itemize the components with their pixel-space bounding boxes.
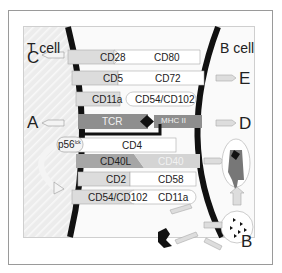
cd54-cd102-t-label: CD54/CD102 — [88, 193, 147, 203]
cd80-label: CD80 — [154, 53, 180, 63]
cd72-label: CD72 — [155, 74, 181, 84]
cd40l-label: CD40L — [100, 157, 131, 167]
cd54-cd102-label: CD54/CD102 — [135, 95, 194, 105]
arrow-cd40-icon — [204, 158, 224, 164]
marker-d: D — [239, 115, 251, 132]
cd5-label: CD5 — [103, 74, 123, 84]
tcr-label: TCR — [102, 117, 123, 127]
cd28-label: CD28 — [100, 53, 126, 63]
antigen-icon — [158, 228, 172, 248]
mhc-ii-label: MHC II — [161, 117, 186, 125]
marker-a: A — [27, 114, 38, 131]
b-cell-membrane — [197, 27, 222, 237]
cd11a-b-label: CD11a — [158, 193, 188, 203]
p56lck-label: p56lck — [58, 140, 81, 150]
marker-c: C — [27, 49, 39, 66]
cd40-label: CD40 — [158, 157, 184, 167]
cd58-label: CD58 — [158, 175, 184, 185]
arrow-e-icon — [216, 75, 236, 81]
marker-e: E — [239, 70, 250, 87]
cd4-label: CD4 — [122, 141, 142, 151]
b-cell-label: B cell — [220, 41, 254, 55]
cd11a-label: CD11a — [92, 95, 122, 105]
marker-b: B — [241, 233, 252, 250]
arrow-d-icon — [216, 120, 236, 126]
cd2-label: CD2 — [106, 175, 126, 185]
